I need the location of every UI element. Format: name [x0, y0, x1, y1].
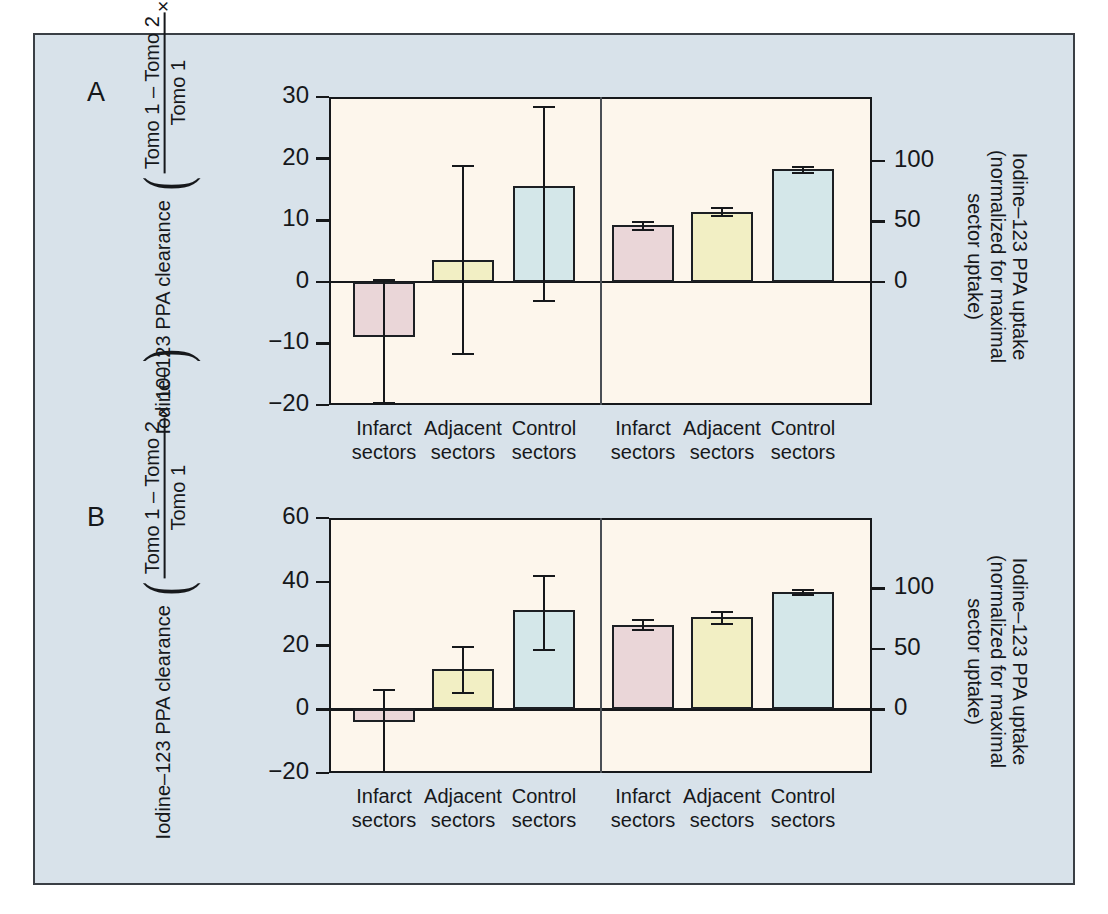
- error-bar-cap-lower: [792, 594, 814, 596]
- error-bar-cap-upper: [452, 165, 474, 167]
- error-bar-cap-lower: [452, 353, 474, 355]
- error-bar-line: [462, 646, 464, 692]
- category-label-line2: sectors: [743, 441, 863, 465]
- error-bar-line: [543, 575, 545, 648]
- y-axis-tick-left: [316, 342, 329, 345]
- paren-open-icon: (: [147, 582, 182, 595]
- right-axis-title-line3: sector uptake): [963, 507, 985, 817]
- y-axis-tick-right: [872, 587, 885, 590]
- x-axis-category-label: Controlsectors: [743, 785, 863, 832]
- error-bar-cap-upper: [373, 689, 395, 691]
- bar-control-sectors: [772, 592, 834, 709]
- y-axis-tick-left: [316, 772, 329, 775]
- y-axis-tick-label-left: −20: [219, 389, 309, 417]
- bar-infarct-sectors: [612, 225, 674, 282]
- y-axis-tick-label-left: 0: [219, 693, 309, 721]
- category-label-line1: Control: [743, 785, 863, 809]
- y-axis-tick-label-right: 100: [894, 572, 984, 600]
- error-bar-cap-lower: [533, 300, 555, 302]
- y-axis-tick-label-right: 50: [894, 205, 984, 233]
- error-bar-cap-upper: [711, 207, 733, 209]
- error-bar-cap-lower: [452, 692, 474, 694]
- y-axis-tick-right: [872, 220, 885, 223]
- y-axis-tick-label-right: 0: [894, 266, 984, 294]
- group-divider: [600, 97, 602, 405]
- multiplier-text: × 100: [152, 367, 174, 418]
- y-axis-tick-left: [316, 281, 329, 284]
- y-axis-tick-right: [872, 281, 885, 284]
- y-axis-tick-label-left: −10: [219, 327, 309, 355]
- bar-adjacent-sectors: [691, 617, 753, 709]
- error-bar-cap-lower: [373, 402, 395, 404]
- error-bar-cap-upper: [711, 611, 733, 613]
- paren-close-icon: ): [147, 349, 182, 362]
- y-axis-tick-right: [872, 708, 885, 711]
- error-bar-cap-lower: [632, 229, 654, 231]
- bar-infarct-sectors: [612, 625, 674, 710]
- y-axis-tick-label-left: 20: [219, 143, 309, 171]
- y-axis-tick-left: [316, 96, 329, 99]
- y-axis-tick-label-left: 0: [219, 266, 309, 294]
- panel-b: B Iodine–123 PPA clearance (Tomo 1 – Tom…: [35, 490, 1077, 880]
- fraction-denominator: Tomo 1: [166, 12, 189, 173]
- axis-title-text: Iodine–123 PPA clearance: [152, 605, 174, 839]
- y-axis-tick-label-right: 0: [894, 693, 984, 721]
- y-axis-tick-right: [872, 160, 885, 163]
- error-bar-cap-lower: [533, 649, 555, 651]
- right-axis-title-line1: Iodine–123 PPA uptake: [1008, 102, 1030, 412]
- panel-b-right-axis-title: Iodine–123 PPA uptake (normalized for ma…: [963, 507, 1030, 817]
- category-label-line1: Control: [743, 417, 863, 441]
- error-bar-cap-upper: [792, 166, 814, 168]
- error-bar-cap-upper: [533, 575, 555, 577]
- y-axis-tick-label-right: 100: [894, 145, 984, 173]
- error-bar-cap-upper: [533, 106, 555, 108]
- error-bar-line: [383, 279, 385, 402]
- y-axis-tick-right: [872, 648, 885, 651]
- y-axis-tick-left: [316, 517, 329, 520]
- y-axis-tick-label-left: 40: [219, 566, 309, 594]
- group-divider: [600, 518, 602, 773]
- y-axis-tick-left: [316, 157, 329, 160]
- error-bar-line: [383, 689, 385, 772]
- figure-panel: A Iodine–123 PPA clearance (Tomo 1 – Tom…: [33, 33, 1075, 885]
- error-bar-cap-lower: [711, 215, 733, 217]
- error-bar-cap-lower: [711, 623, 733, 625]
- error-bar-cap-lower: [373, 771, 395, 773]
- error-bar-cap-upper: [632, 619, 654, 621]
- panel-b-left-axis-title: Iodine–123 PPA clearance (Tomo 1 – Tomo …: [141, 499, 190, 839]
- panel-a-letter: A: [87, 77, 105, 108]
- error-bar-cap-lower: [792, 172, 814, 174]
- error-bar-cap-upper: [632, 221, 654, 223]
- error-bar-cap-lower: [632, 629, 654, 631]
- y-axis-tick-label-left: 20: [219, 630, 309, 658]
- right-axis-title-line2: (normalized for maximal: [986, 507, 1008, 817]
- panel-b-letter: B: [87, 502, 105, 533]
- right-axis-title-line1: Iodine–123 PPA uptake: [1008, 507, 1030, 817]
- y-axis-tick-label-right: 50: [894, 633, 984, 661]
- right-axis-title-line2: (normalized for maximal: [986, 102, 1008, 412]
- y-axis-tick-label-left: −20: [219, 757, 309, 785]
- y-axis-tick-left: [316, 219, 329, 222]
- bar-adjacent-sectors: [691, 212, 753, 282]
- error-bar-line: [462, 165, 464, 353]
- y-axis-tick-label-left: 30: [219, 81, 309, 109]
- bar-control-sectors: [772, 169, 834, 282]
- x-axis-category-label: Controlsectors: [743, 417, 863, 464]
- y-axis-tick-left: [316, 581, 329, 584]
- paren-open-icon: (: [147, 177, 182, 190]
- multiplier-text: × 100: [152, 0, 174, 12]
- fraction: Tomo 1 – Tomo 2Tomo 1: [141, 12, 190, 173]
- y-axis-tick-left: [316, 404, 329, 407]
- fraction-numerator: Tomo 1 – Tomo 2: [141, 417, 166, 578]
- y-axis-tick-label-left: 10: [219, 204, 309, 232]
- panel-a: A Iodine–123 PPA clearance (Tomo 1 – Tom…: [35, 55, 1077, 465]
- error-bar-cap-upper: [452, 646, 474, 648]
- fraction-numerator: Tomo 1 – Tomo 2: [141, 12, 166, 173]
- fraction-denominator: Tomo 1: [166, 417, 189, 578]
- category-label-line2: sectors: [743, 809, 863, 833]
- y-axis-tick-left: [316, 644, 329, 647]
- error-bar-line: [543, 106, 545, 300]
- y-axis-tick-label-left: 60: [219, 502, 309, 530]
- error-bar-cap-upper: [792, 589, 814, 591]
- error-bar-cap-upper: [373, 279, 395, 281]
